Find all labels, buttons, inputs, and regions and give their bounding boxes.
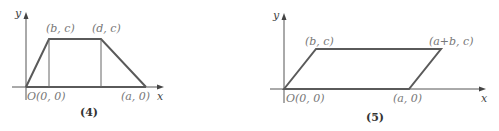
figure-5: y x (b, c) (a+b, c) O(0, 0) (a, 0) (5): [270, 9, 488, 124]
figure-4: y x (b, c) (d, c) O(0, 0) (a, 0) (4): [12, 7, 164, 119]
y-axis-arrow-icon: [24, 12, 29, 19]
figure-caption: (5): [366, 111, 384, 124]
point-label-a-0: (a, 0): [121, 90, 150, 103]
diagram-canvas: y x (b, c) (d, c) O(0, 0) (a, 0) (4) y x…: [0, 0, 499, 131]
point-label-b-c: (b, c): [305, 35, 334, 48]
x-axis-label: x: [157, 90, 164, 103]
trapezoid-outline: [26, 39, 146, 87]
point-label-origin: O(0, 0): [27, 90, 66, 103]
x-axis-arrow-icon: [479, 87, 486, 92]
y-axis-label: y: [272, 9, 280, 22]
parallelogram-outline: [284, 49, 441, 89]
y-axis-arrow-icon: [282, 13, 287, 20]
point-label-b-c: (b, c): [46, 22, 75, 35]
point-label-a-plus-b-c: (a+b, c): [429, 35, 474, 48]
x-axis-arrow-icon: [157, 85, 164, 90]
x-axis-label: x: [481, 92, 488, 105]
y-axis-label: y: [14, 7, 22, 20]
point-label-origin: O(0, 0): [286, 92, 325, 105]
point-label-d-c: (d, c): [92, 22, 121, 35]
figure-caption: (4): [80, 106, 98, 119]
point-label-a-0: (a, 0): [393, 92, 422, 105]
